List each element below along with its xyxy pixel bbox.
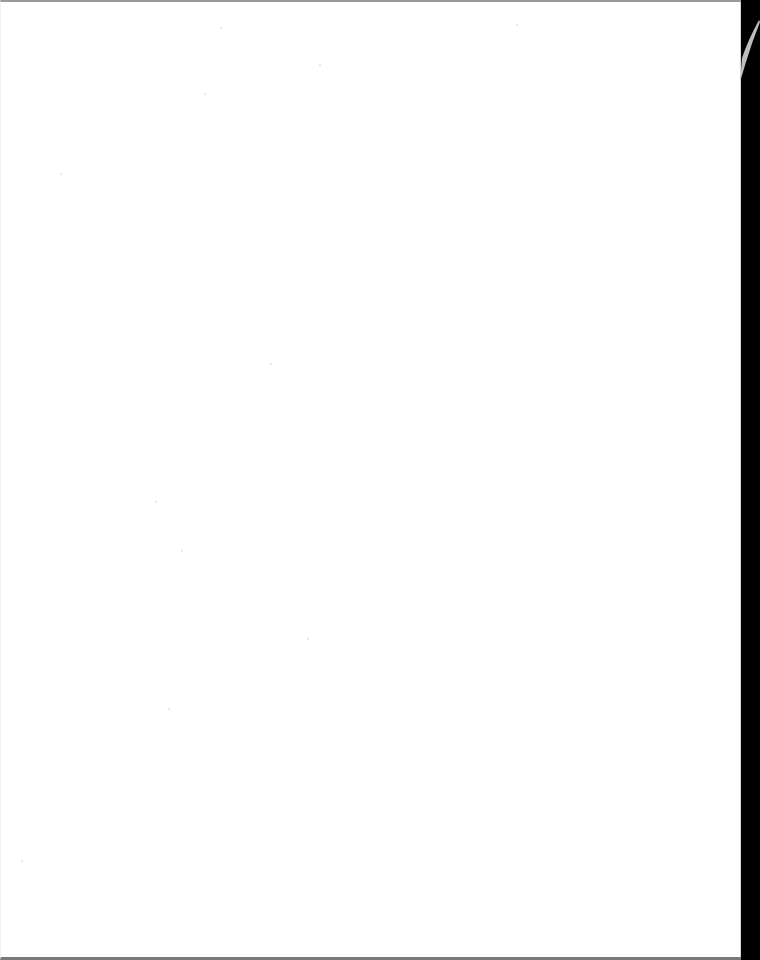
dust-speck [155,501,157,503]
dust-speck [270,363,272,365]
dust-speck [319,64,321,66]
dust-speck [516,24,518,26]
dust-speck [168,708,170,710]
dust-speck [307,638,309,640]
page-right-edge [740,2,741,957]
dust-speck [60,173,62,175]
scan-background [0,0,760,960]
blank-page [0,0,741,960]
dust-speck [181,550,183,552]
dust-speck [220,27,222,29]
dust-speck [21,860,23,862]
dust-speck [204,93,206,95]
page-curl-glint [740,18,760,82]
